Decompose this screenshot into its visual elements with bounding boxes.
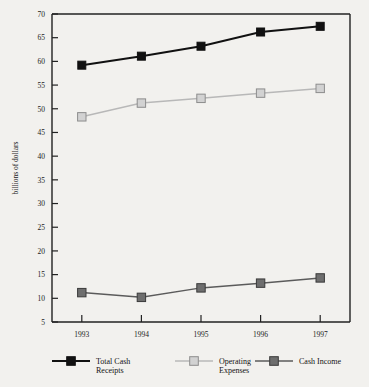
data-point: [137, 52, 145, 60]
data-point: [257, 28, 265, 36]
x-tick-label: 1996: [253, 330, 268, 339]
chart-background: [0, 0, 369, 387]
y-tick-label: 65: [38, 33, 46, 42]
legend-label-line2: Expenses: [219, 366, 249, 375]
data-point: [197, 42, 205, 50]
y-tick-label: 55: [38, 81, 46, 90]
y-tick-label: 25: [38, 223, 46, 232]
data-point: [316, 274, 324, 282]
legend-marker: [190, 357, 199, 366]
y-tick-label: 50: [38, 105, 46, 114]
data-point: [78, 288, 86, 296]
chart-canvas: 510152025303540455055606570 199319941995…: [0, 0, 369, 387]
x-tick-label: 1993: [74, 330, 89, 339]
y-tick-label: 30: [38, 199, 46, 208]
x-tick-label: 1997: [313, 330, 328, 339]
data-point: [316, 84, 324, 92]
y-tick-label: 70: [38, 10, 46, 19]
y-tick-label: 60: [38, 57, 46, 66]
legend-label-line2: Receipts: [96, 366, 124, 375]
line-chart: 510152025303540455055606570 199319941995…: [0, 0, 369, 387]
legend-marker: [270, 357, 279, 366]
x-tick-label: 1994: [134, 330, 149, 339]
data-point: [197, 284, 205, 292]
legend-marker: [67, 357, 76, 366]
data-point: [197, 94, 205, 102]
y-tick-label: 10: [38, 294, 46, 303]
y-axis-title: billions of dollars: [11, 141, 20, 194]
data-point: [137, 293, 145, 301]
y-tick-label: 15: [38, 270, 46, 279]
legend-label-line1: Cash Income: [299, 357, 341, 366]
y-tick-label: 35: [38, 176, 46, 185]
data-point: [78, 61, 86, 69]
data-point: [256, 279, 264, 287]
legend-label-line1: Operating: [219, 357, 251, 366]
y-tick-label: 5: [41, 318, 45, 327]
y-tick-label: 20: [38, 247, 46, 256]
x-tick-label: 1995: [194, 330, 209, 339]
y-tick-label: 45: [38, 128, 46, 137]
y-tick-label: 40: [38, 152, 46, 161]
data-point: [137, 99, 145, 107]
legend-label-line1: Total Cash: [96, 357, 130, 366]
data-point: [78, 113, 86, 121]
data-point: [316, 22, 324, 30]
data-point: [256, 89, 264, 97]
